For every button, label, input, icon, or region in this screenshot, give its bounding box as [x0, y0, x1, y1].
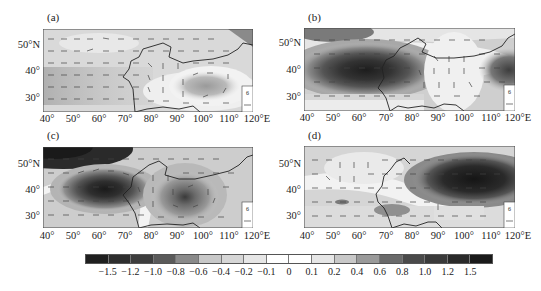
colorbar-swatch: [357, 255, 380, 263]
xtick-a-120: 120°E: [244, 113, 270, 124]
colorbar-swatch: [199, 255, 222, 263]
colorbar-tick-label: −1.0: [144, 266, 162, 277]
xtick-a-100: 100°: [193, 113, 213, 124]
xtick-c-60: 60°: [92, 230, 107, 241]
colorbar-swatch: [86, 255, 109, 263]
xtick-b-70: 70°: [379, 112, 394, 123]
xtick-c-110: 110°: [219, 230, 239, 241]
xtick-a-60: 60°: [92, 113, 107, 124]
xtick-b-50: 50°: [326, 112, 341, 123]
colorbar-tick-label: 0.2: [328, 266, 341, 277]
xtick-d-60: 60°: [352, 230, 367, 241]
colorbar-tick-label: 1.0: [419, 266, 432, 277]
xtick-c-70: 70°: [118, 230, 133, 241]
xtick-b-110: 110°: [481, 112, 501, 123]
xtick-c-80: 80°: [144, 230, 159, 241]
colorbar-swatch: [131, 255, 154, 263]
xtick-c-100: 100°: [193, 230, 213, 241]
xtick-a-70: 70°: [118, 113, 133, 124]
colorbar-tick-label: 0.8: [396, 266, 409, 277]
panel-label-d: (d): [308, 129, 321, 141]
xtick-d-90: 90°: [431, 230, 446, 241]
colorbar: [85, 254, 493, 264]
colorbar-swatch: [176, 255, 199, 263]
ytick-b-40: 40°: [267, 64, 301, 75]
panel-label-c: (c): [47, 129, 59, 141]
xtick-a-90: 90°: [170, 113, 185, 124]
colorbar-swatch: [154, 255, 177, 263]
xtick-c-90: 90°: [170, 230, 185, 241]
colorbar-swatch: [380, 255, 403, 263]
colorbar-tick-label: 1.5: [464, 266, 477, 277]
colorbar-tick-label: −0.6: [189, 266, 207, 277]
xtick-a-110: 110°: [219, 113, 239, 124]
reference-vector-label: 6: [246, 206, 249, 212]
xtick-c-40: 40°: [40, 230, 55, 241]
reference-vector-label: 6: [508, 206, 511, 212]
reference-vector-label: 6: [246, 90, 249, 96]
reference-vector-box: 6: [504, 85, 515, 111]
xtick-d-110: 110°: [481, 230, 501, 241]
colorbar-swatch: [425, 255, 448, 263]
xtick-a-50: 50°: [66, 113, 81, 124]
ytick-d-30: 30°: [267, 210, 301, 221]
colorbar-swatch: [335, 255, 358, 263]
colorbar-swatch: [403, 255, 426, 263]
colorbar-tick-label: 0.1: [305, 266, 318, 277]
colorbar-swatch: [267, 255, 290, 263]
colorbar-swatch: [244, 255, 267, 263]
xtick-c-50: 50°: [66, 230, 81, 241]
xtick-b-80: 80°: [405, 112, 420, 123]
colorbar-tick-label: 0: [287, 266, 292, 277]
xtick-d-100: 100°: [454, 230, 474, 241]
map-panel-b: 6: [304, 28, 515, 111]
xtick-a-80: 80°: [144, 113, 159, 124]
xtick-d-120: 120°E: [505, 230, 531, 241]
colorbar-tick-label: 0.4: [351, 266, 364, 277]
map-panel-d: 6: [304, 146, 515, 228]
reference-vector-box: 6: [242, 202, 253, 228]
panel-label-a: (a): [47, 11, 59, 23]
xtick-b-120: 120°E: [505, 112, 531, 123]
ytick-b-50: 50°N: [267, 37, 301, 48]
xtick-b-40: 40°: [300, 112, 315, 123]
colorbar-tick-label: −1.2: [121, 266, 139, 277]
colorbar-tick-label: −0.8: [167, 266, 185, 277]
colorbar-swatch: [470, 255, 492, 263]
colorbar-tick-label: 1.2: [441, 266, 454, 277]
ytick-a-40: 40°: [6, 65, 40, 76]
xtick-d-80: 80°: [405, 230, 420, 241]
colorbar-swatch: [312, 255, 335, 263]
colorbar-swatch: [222, 255, 245, 263]
xtick-b-90: 90°: [431, 112, 446, 123]
xtick-c-120: 120°E: [244, 230, 270, 241]
ytick-a-50: 50°N: [6, 39, 40, 50]
ytick-c-50: 50°N: [6, 158, 40, 169]
ytick-a-30: 30°: [6, 92, 40, 103]
colorbar-tick-label: −1.5: [99, 266, 117, 277]
ytick-c-40: 40°: [6, 184, 40, 195]
colorbar-swatch: [109, 255, 132, 263]
colorbar-swatch: [448, 255, 471, 263]
xtick-d-40: 40°: [300, 230, 315, 241]
colorbar-swatch: [289, 255, 312, 263]
reference-vector-box: 6: [242, 86, 253, 112]
xtick-d-50: 50°: [326, 230, 341, 241]
colorbar-tick-label: 0.6: [373, 266, 386, 277]
xtick-d-70: 70°: [379, 230, 394, 241]
map-panel-c: 6: [43, 147, 253, 228]
xtick-b-60: 60°: [352, 112, 367, 123]
panel-label-b: (b): [308, 11, 321, 23]
reference-vector-box: 6: [504, 202, 515, 228]
colorbar-tick-label: −0.1: [257, 266, 275, 277]
ytick-c-30: 30°: [6, 210, 40, 221]
map-panel-a: 6: [43, 29, 253, 112]
xtick-b-100: 100°: [454, 112, 474, 123]
reference-vector-label: 6: [508, 89, 511, 95]
colorbar-tick-label: −0.4: [212, 266, 230, 277]
xtick-a-40: 40°: [40, 113, 55, 124]
ytick-d-40: 40°: [267, 184, 301, 195]
colorbar-tick-label: −0.2: [235, 266, 253, 277]
ytick-d-50: 50°N: [267, 158, 301, 169]
ytick-b-30: 30°: [267, 91, 301, 102]
